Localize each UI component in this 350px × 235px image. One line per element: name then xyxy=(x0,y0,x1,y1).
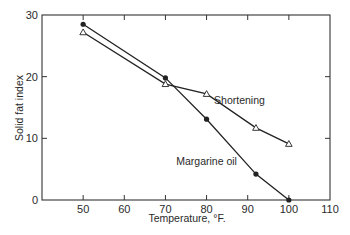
series-annotation: Shortening xyxy=(214,94,265,106)
x-tick-label: 90 xyxy=(242,203,254,215)
y-tick-label: 20 xyxy=(26,71,38,83)
series-annotation: Margarine oil xyxy=(176,155,237,167)
open-triangle-marker xyxy=(162,81,169,87)
series-line xyxy=(83,32,289,144)
x-tick-label: 110 xyxy=(321,203,339,215)
x-tick-label: 100 xyxy=(280,203,298,215)
filled-circle-marker xyxy=(204,117,209,122)
y-tick-label: 10 xyxy=(26,132,38,144)
y-tick-label: 30 xyxy=(26,9,38,21)
series-lines xyxy=(80,22,292,203)
x-ticks: 5060708090100110 xyxy=(77,15,339,215)
filled-circle-marker xyxy=(81,22,86,27)
solid-fat-index-chart: 5060708090100110 0102030 ShorteningMarga… xyxy=(0,0,350,235)
filled-circle-marker xyxy=(286,197,291,202)
filled-circle-marker xyxy=(253,172,258,177)
y-ticks: 0102030 xyxy=(26,9,330,206)
x-tick-label: 60 xyxy=(118,203,130,215)
plot-frame xyxy=(42,15,330,200)
annotations: ShorteningMargarine oil xyxy=(176,94,265,166)
y-axis-label: Solid fat index xyxy=(13,74,25,141)
open-triangle-marker xyxy=(253,125,260,131)
open-triangle-marker xyxy=(80,29,87,35)
y-tick-label: 0 xyxy=(32,194,38,206)
x-axis-label: Temperature, °F. xyxy=(148,212,225,224)
filled-circle-marker xyxy=(163,75,168,80)
x-tick-label: 50 xyxy=(77,203,89,215)
plot-border xyxy=(42,15,330,200)
